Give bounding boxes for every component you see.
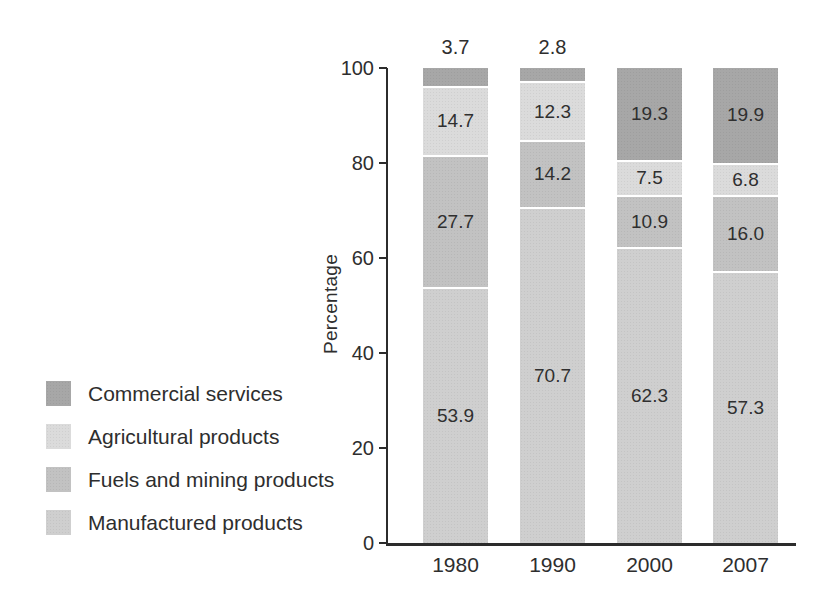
bar-segment-commercial-services-2000: 19.3 <box>617 68 682 160</box>
x-axis-label-1990: 1990 <box>508 553 598 577</box>
y-axis-tick-0 <box>379 542 387 544</box>
x-axis-label-2000: 2000 <box>605 553 695 577</box>
bar-segment-commercial-services-2007: 19.9 <box>713 68 778 163</box>
bar-value-label: 62.3 <box>631 385 668 407</box>
bar-value-label: 14.2 <box>534 163 571 185</box>
y-axis-tick-60 <box>379 257 387 259</box>
bar-segment-commercial-services-1980 <box>423 68 488 86</box>
y-axis-tick-100 <box>379 67 387 69</box>
bar-segment-fuels-and-mining-products-2000: 10.9 <box>617 195 682 247</box>
legend-swatch-manufactured-products <box>46 510 71 535</box>
y-axis-tick-label-60: 60 <box>322 247 374 269</box>
bar-segment-agricultural-products-1990: 12.3 <box>520 81 585 139</box>
legend-item-manufactured-products: Manufactured products <box>46 510 334 535</box>
legend-label-commercial-services: Commercial services <box>88 382 283 406</box>
bar-value-label: 70.7 <box>534 365 571 387</box>
legend-swatch-commercial-services <box>46 381 71 406</box>
bar-value-label: 12.3 <box>534 101 571 123</box>
legend-item-commercial-services: Commercial services <box>46 381 334 406</box>
legend-label-fuels-and-mining-products: Fuels and mining products <box>88 468 334 492</box>
x-axis-label-1980: 1980 <box>411 553 501 577</box>
legend-label-agricultural-products: Agricultural products <box>88 425 279 449</box>
bar-segment-manufactured-products-2000: 62.3 <box>617 247 682 543</box>
bar-1990: 12.314.270.7 <box>520 68 585 543</box>
above-bar-value-label-1990: 2.8 <box>520 36 585 59</box>
bar-segment-agricultural-products-2007: 6.8 <box>713 163 778 195</box>
bar-value-label: 10.9 <box>631 211 668 233</box>
bar-segment-manufactured-products-2007: 57.3 <box>713 271 778 543</box>
stacked-bar-chart-figure: Percentage 020406080100 14.727.753.912.3… <box>0 0 824 601</box>
bar-value-label: 27.7 <box>437 211 474 233</box>
bar-segment-agricultural-products-2000: 7.5 <box>617 160 682 196</box>
bar-1980: 14.727.753.9 <box>423 68 488 543</box>
bar-value-label: 57.3 <box>727 397 764 419</box>
bar-value-label: 53.9 <box>437 405 474 427</box>
legend-item-agricultural-products: Agricultural products <box>46 424 334 449</box>
legend-swatch-fuels-and-mining-products <box>46 467 71 492</box>
above-bar-value-label-1980: 3.7 <box>423 36 488 59</box>
y-axis-tick-label-40: 40 <box>322 342 374 364</box>
bar-value-label: 19.3 <box>631 103 668 125</box>
bar-segment-manufactured-products-1990: 70.7 <box>520 207 585 543</box>
y-axis-tick-80 <box>379 162 387 164</box>
y-axis-tick-label-80: 80 <box>322 152 374 174</box>
bar-value-label: 6.8 <box>732 169 758 191</box>
bar-value-label: 14.7 <box>437 110 474 132</box>
x-axis-label-2007: 2007 <box>701 553 791 577</box>
bar-segment-commercial-services-1990 <box>520 68 585 81</box>
legend: Commercial servicesAgricultural products… <box>46 381 334 553</box>
bar-segment-manufactured-products-1980: 53.9 <box>423 287 488 543</box>
y-axis-tick-40 <box>379 352 387 354</box>
bar-segment-fuels-and-mining-products-1990: 14.2 <box>520 140 585 207</box>
bar-2000: 19.37.510.962.3 <box>617 68 682 543</box>
bar-segment-fuels-and-mining-products-1980: 27.7 <box>423 155 488 287</box>
bar-value-label: 16.0 <box>727 223 764 245</box>
y-axis-tick-label-100: 100 <box>322 57 374 79</box>
y-axis-tick-20 <box>379 447 387 449</box>
bar-segment-fuels-and-mining-products-2007: 16.0 <box>713 195 778 271</box>
legend-item-fuels-and-mining-products: Fuels and mining products <box>46 467 334 492</box>
bar-value-label: 19.9 <box>727 104 764 126</box>
legend-swatch-agricultural-products <box>46 424 71 449</box>
bar-2007: 19.96.816.057.3 <box>713 68 778 543</box>
legend-label-manufactured-products: Manufactured products <box>88 511 303 535</box>
bar-value-label: 7.5 <box>636 167 662 189</box>
bar-segment-agricultural-products-1980: 14.7 <box>423 86 488 156</box>
